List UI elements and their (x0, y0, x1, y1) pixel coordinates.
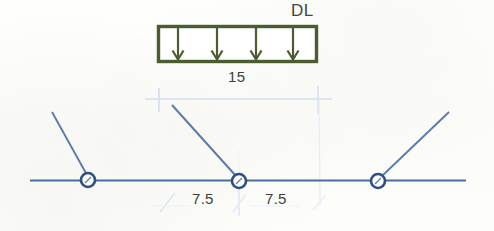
distributed-load-block (159, 27, 317, 62)
diagonal-member-right (382, 112, 449, 176)
span-dimension-bottom-tick-right (313, 196, 325, 210)
half-span-left-label: 7.5 (192, 191, 214, 206)
total-span-label: 15 (228, 69, 245, 84)
structure-group (30, 105, 466, 188)
structural-diagram-svg (0, 0, 494, 231)
span-extension-right-vertical (319, 99, 320, 205)
load-name-label: DL (291, 2, 314, 19)
span-dimension-bottom-tick-left (160, 193, 175, 212)
half-span-right-label: 7.5 (265, 191, 287, 206)
diagram-canvas: DL 15 7.5 7.5 (0, 0, 494, 231)
diagonal-member-left (52, 112, 87, 175)
diagonal-member-middle (172, 105, 236, 176)
